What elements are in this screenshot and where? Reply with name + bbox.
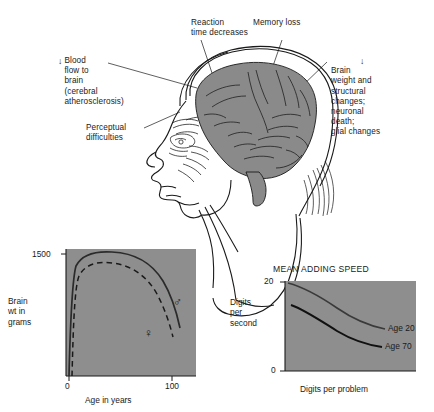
male-curve	[69, 252, 180, 376]
brain-weight-xtick-100: 100	[165, 381, 179, 391]
brain-weight-plot-svg	[0, 240, 215, 412]
brain-weight-xlabel: Age in years	[85, 395, 132, 405]
adding-speed-xlabel: Digits per problem	[300, 384, 368, 394]
callout-perceptual-difficulties: Perceptual difficulties	[86, 113, 126, 144]
scalp-outline	[180, 46, 338, 216]
age-20-curve	[288, 283, 385, 329]
callout-brain-weight: Brain weight and structural changes; neu…	[331, 56, 380, 148]
brain-weight-xtick-0: 0	[65, 381, 70, 391]
callout-memory-loss: Memory loss	[253, 8, 301, 28]
callout-brain-weight-text: Brain weight and structural changes; neu…	[331, 66, 380, 136]
eye-and-wrinkles	[169, 117, 215, 182]
female-curve	[72, 262, 173, 376]
brain-weight-ylabel: Brain wt in grams	[8, 296, 31, 327]
callout-blood-flow: ↓ Blood flow to brain (cerebral atherosc…	[58, 56, 124, 107]
brain-weight-chart: ♂ ♀ 1500 0 100 Brain wt in grams Age in …	[0, 240, 215, 412]
series-label-age-20: Age 20	[388, 323, 415, 333]
brain-shape	[196, 62, 317, 206]
adding-speed-ytick-0: 0	[271, 365, 276, 375]
callout-perceptual-difficulties-text: Perceptual difficulties	[86, 123, 126, 142]
age-70-curve	[291, 305, 382, 347]
down-arrow-icon-2: ↓	[360, 56, 364, 66]
face-profile	[147, 101, 202, 218]
mean-adding-speed-chart: MEAN ADDING SPEED 20 0 Digits per second…	[225, 255, 434, 412]
male-symbol-icon: ♂	[173, 296, 182, 308]
female-symbol-icon: ♀	[144, 327, 153, 339]
down-arrow-icon: ↓	[58, 56, 62, 107]
figure-root: Reaction time decreases Memory loss ↓ Bl…	[0, 0, 434, 412]
callout-reaction-time: Reaction time decreases	[191, 8, 248, 39]
callout-blood-flow-text: Blood flow to brain (cerebral atheroscle…	[64, 56, 123, 107]
callout-memory-loss-text: Memory loss	[253, 18, 301, 27]
adding-speed-ytick-20: 20	[264, 276, 273, 286]
leader-lines	[108, 40, 327, 128]
brain-weight-ytick-1500: 1500	[32, 249, 51, 259]
series-label-age-70: Age 70	[385, 341, 412, 351]
callout-reaction-time-text: Reaction time decreases	[191, 18, 248, 37]
hair-wisps	[304, 161, 334, 216]
adding-speed-ylabel: Digits per second	[230, 297, 257, 328]
